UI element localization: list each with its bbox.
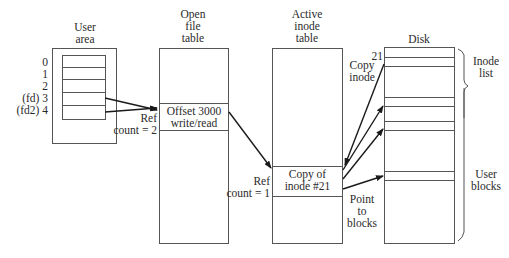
label-line: Inode [466,55,506,67]
block-pointer-arrow-1 [343,106,383,170]
ref-label: Ref [210,175,270,187]
title-line: inode [282,20,332,32]
block-pointer-arrow-3 [343,176,383,189]
user-area-title: User area [60,21,110,45]
fd-row-label-4: (fd2) 4 [4,104,48,116]
label-line: Copy [344,59,380,71]
file-to-inode-arrow [229,112,271,168]
open-file-table-title: Open file table [168,8,218,44]
user-blocks-label: User blocks [466,168,506,192]
open-file-table-box [159,49,229,244]
point-to-blocks-label: Point to blocks [344,193,380,229]
active-inode-table-title: Active inode table [282,8,332,44]
fd-row-label-2: 2 [4,80,48,92]
open-file-ref-count: Ref count = 2 [100,112,157,136]
title-line: file [168,20,218,32]
title-line: table [168,32,218,44]
label-line: blocks [344,217,380,229]
active-inode-table-box [272,49,343,244]
active-inode-ref-count: Ref count = 1 [210,175,270,199]
disk-title: Disk [394,33,444,45]
label-line: blocks [466,180,506,192]
title-line: area [60,33,110,45]
title-line: table [282,32,332,44]
user-blocks-brace [458,88,464,241]
title-line: User [60,21,110,33]
count-label: count = 2 [100,124,157,136]
label-line: Point [344,193,380,205]
active-inode-entry: Copy of inode #21 [273,168,342,192]
disk-box [384,48,455,244]
copy-of-label: Copy of [273,168,342,180]
fd-row-label-3: (fd) 3 [4,92,48,104]
fd-row-label-0: 0 [4,56,48,68]
offset-label: Offset 3000 [160,105,228,117]
label-line: list [466,67,506,79]
mode-label: write/read [160,117,228,129]
label-line: inode [344,71,380,83]
inode-number-label: inode #21 [273,180,342,192]
title-line: Open [168,8,218,20]
copy-inode-label: Copy inode [344,59,380,83]
label-line: User [466,168,506,180]
title-line: Active [282,8,332,20]
inode-list-label: Inode list [466,55,506,79]
ref-label: Ref [100,112,157,124]
open-file-entry: Offset 3000 write/read [160,105,228,129]
fd-row-label-1: 1 [4,68,48,80]
label-line: to [344,205,380,217]
count-label: count = 1 [210,187,270,199]
